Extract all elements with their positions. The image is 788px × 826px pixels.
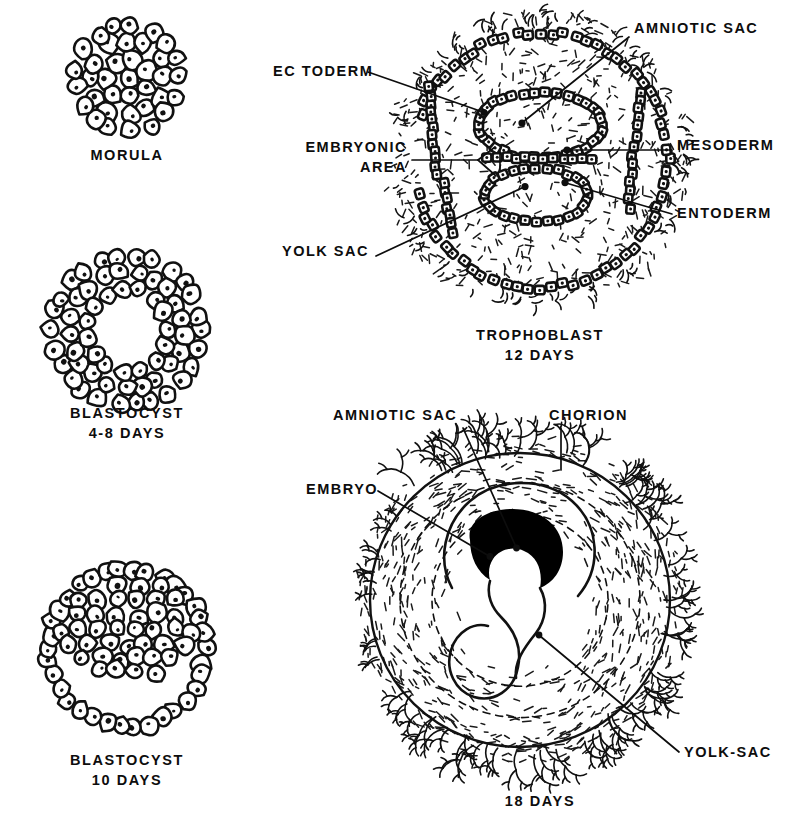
caption-eighteen-days: 18 DAYS [505,793,575,809]
leader-dot-amniotic-sac-18 [513,545,520,552]
label-embryo: EMBRYO [306,481,378,497]
figure-canvas: MORULABLASTOCYST4-8 DAYSBLASTOCYST10 DAY… [0,0,788,826]
label-chorion: CHORION [549,407,628,423]
caption-trophoblast-12: 12 DAYS [505,347,575,363]
caption-blastocyst-10: 10 DAYS [92,772,162,788]
leader-dot-embryo [487,553,494,560]
embryology-figure: MORULABLASTOCYST4-8 DAYSBLASTOCYST10 DAY… [0,0,788,826]
label-embryonic-area2: AREA [360,159,407,175]
leader-dot-yolk-sac [521,183,528,190]
label-embryonic-area: EMBRYONIC [305,139,407,155]
label-entoderm: ENTODERM [677,205,772,221]
label-amniotic-sac: AMNIOTIC SAC [634,20,758,36]
leader-dot-ectoderm [480,109,487,116]
leader-dot-amniotic-sac [518,119,525,126]
label-amniotic-sac-18: AMNIOTIC SAC [333,407,457,423]
caption-morula: MORULA [90,147,163,163]
label-ectoderm: EC TODERM [273,63,373,79]
caption-blastocyst-4-8: BLASTOCYST [70,405,184,421]
label-mesoderm: MESODERM [677,137,774,153]
leader-dot-entoderm [561,179,568,186]
leader-dot-yolk-sac-18 [536,632,543,639]
caption-blastocyst-10: BLASTOCYST [70,752,184,768]
caption-trophoblast-12: TROPHOBLAST [476,327,604,343]
label-yolk-sac: YOLK SAC [282,243,369,259]
caption-blastocyst-4-8: 4-8 DAYS [89,425,166,441]
label-yolk-sac-18: YOLK-SAC [684,744,772,760]
leader-dot-mesoderm [563,146,570,153]
